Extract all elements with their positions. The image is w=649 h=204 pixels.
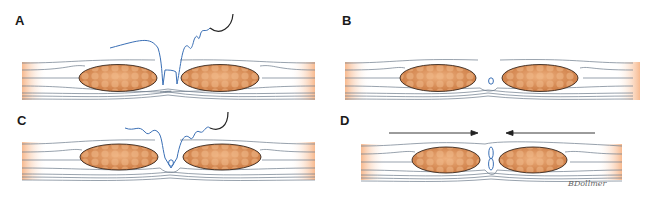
tissue-illustration-c bbox=[0, 102, 324, 204]
illustrator-signature: BDollmer bbox=[568, 179, 606, 188]
tissue-illustration-d bbox=[325, 102, 649, 204]
knot-icon bbox=[489, 158, 494, 170]
arrow-right-icon bbox=[389, 131, 478, 136]
knot-icon bbox=[489, 147, 493, 159]
tissue-illustration-a bbox=[0, 0, 324, 102]
panel-b: B bbox=[325, 0, 649, 102]
arrow-left-icon bbox=[506, 131, 595, 136]
knot-icon bbox=[489, 78, 494, 84]
panel-c: C bbox=[0, 102, 324, 204]
panel-d: D BDollmer bbox=[325, 102, 649, 204]
panel-a: A bbox=[0, 0, 324, 102]
tissue-illustration-b bbox=[325, 0, 649, 102]
